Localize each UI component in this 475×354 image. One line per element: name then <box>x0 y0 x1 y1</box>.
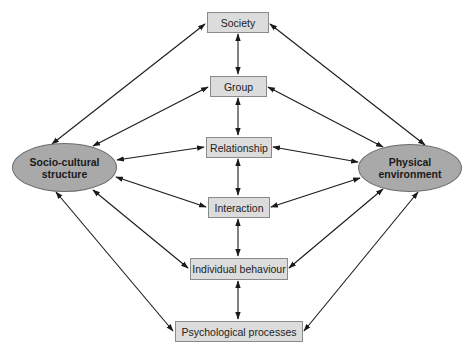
arrow-socio-individual <box>93 190 188 268</box>
node-physical-environment: Physical environment <box>358 144 462 192</box>
arrow-socio-group <box>93 87 208 146</box>
arrow-physical-group <box>268 87 383 147</box>
node-society: Society <box>207 12 269 33</box>
arrow-socio-relationship <box>117 147 204 160</box>
arrow-physical-relationship <box>273 147 358 162</box>
socio-cultural-label-line2: structure <box>29 168 99 180</box>
node-relationship: Relationship <box>206 137 272 158</box>
node-group: Group <box>210 76 267 97</box>
node-socio-cultural-structure: Socio-cultural structure <box>12 143 117 192</box>
arrow-physical-psychological <box>304 192 418 331</box>
physical-label-line2: environment <box>378 168 441 180</box>
node-interaction: Interaction <box>208 197 270 218</box>
arrow-physical-individual <box>289 189 383 268</box>
arrow-physical-interaction <box>271 178 360 207</box>
node-psychological-processes: Psychological processes <box>175 321 303 342</box>
socio-cultural-label-line1: Socio-cultural <box>29 156 99 168</box>
arrow-physical-society <box>270 24 425 145</box>
arrow-socio-interaction <box>116 177 206 207</box>
physical-label-line1: Physical <box>378 156 441 168</box>
arrow-socio-society <box>52 24 205 144</box>
arrow-socio-psychological <box>56 192 173 331</box>
node-individual-behaviour: Individual behaviour <box>190 258 288 280</box>
